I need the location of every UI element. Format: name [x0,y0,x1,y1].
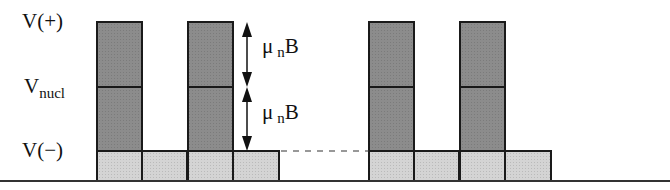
label-v-nucl-main: V [24,74,39,98]
splitting-label-upper: μnB [262,36,299,57]
short-bar-1-texture [142,151,187,181]
splitting-label-lower: μnB [262,102,299,123]
label-v-minus-text: V(−) [22,138,63,162]
mu-symbol: μ [262,100,273,124]
mu-subscript: n [277,44,285,60]
splitting-arrows [242,22,252,151]
tall-bar-3-middle-texture [369,87,414,151]
tall-bar-2-lower-texture [188,151,233,181]
arrowhead-up-icon [242,87,252,102]
arrow-upper-splitting [242,22,252,87]
short-bar-2-texture [233,151,279,181]
arrowhead-down-icon [242,136,252,151]
field-symbol: B [285,100,299,124]
tall-bar-4-lower-texture [460,151,505,181]
arrowhead-down-icon [242,72,252,87]
diagram-canvas: V(+) Vnucl V(−) μnB μnB [0,0,670,190]
tall-bar-4-upper-texture [460,22,505,87]
tall-bar-2-upper-texture [188,22,233,87]
tall-bar-1-upper-texture [97,22,142,87]
short-bar-4-texture [505,151,551,181]
label-v-plus-text: V(+) [22,9,63,33]
label-v-plus: V(+) [22,11,63,32]
mu-subscript: n [277,110,285,126]
short-bar-3-texture [414,151,459,181]
arrowhead-up-icon [242,22,252,37]
arrow-lower-splitting [242,87,252,151]
tall-bar-1-middle-texture [97,87,142,151]
tall-bar-1-lower-texture [97,151,142,181]
tall-bar-3-upper-texture [369,22,414,87]
label-v-minus: V(−) [22,140,63,161]
tall-bar-3-lower-texture [369,151,414,181]
mu-symbol: μ [262,34,273,58]
bars-group [97,22,551,181]
label-v-nucl-sub: nucl [39,85,65,101]
tall-bar-2-middle-texture [188,87,233,151]
pulse-diagram [0,0,670,190]
label-v-nucl: Vnucl [24,76,65,101]
field-symbol: B [285,34,299,58]
tall-bar-4-middle-texture [460,87,505,151]
